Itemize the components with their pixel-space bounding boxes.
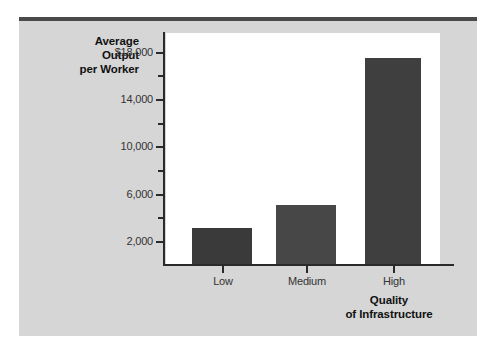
x-tick-low (222, 266, 224, 273)
y-tick-label-10000: 10,000 (35, 140, 153, 152)
y-tick-label-6000: 6,000 (35, 188, 153, 200)
plot-area (166, 33, 440, 265)
x-axis-line (163, 264, 454, 266)
x-tick-label-high: High (349, 275, 439, 287)
y-tick-minor-16000 (158, 75, 163, 77)
y-tick-10000 (156, 146, 163, 148)
y-tick-label-18000: $18,000 (35, 46, 153, 58)
bar-low (192, 228, 252, 265)
x-axis-title: Quality of Infrastructure (304, 293, 474, 321)
y-tick-2000 (156, 241, 163, 243)
x-axis-title-line-2: of Infrastructure (304, 307, 474, 321)
bar-medium (276, 205, 336, 265)
chart-figure: Average Output per Worker $18,000 14,000… (19, 17, 477, 336)
y-axis-line (163, 32, 165, 266)
x-tick-label-low: Low (178, 275, 268, 287)
top-rule-divider (19, 17, 477, 21)
y-tick-minor-12000 (158, 123, 163, 125)
y-tick-14000 (156, 99, 163, 101)
y-tick-18000 (156, 52, 163, 54)
y-tick-6000 (156, 194, 163, 196)
y-tick-label-14000: 14,000 (35, 93, 153, 105)
bar-high (365, 58, 421, 265)
y-tick-minor-8000 (158, 170, 163, 172)
x-tick-label-medium: Medium (262, 275, 352, 287)
y-axis-title-line-3: per Worker (21, 62, 139, 76)
x-tick-high (393, 266, 395, 273)
x-tick-medium (306, 266, 308, 273)
x-axis-title-line-1: Quality (304, 293, 474, 307)
y-tick-minor-4000 (158, 217, 163, 219)
y-tick-label-2000: 2,000 (35, 235, 153, 247)
